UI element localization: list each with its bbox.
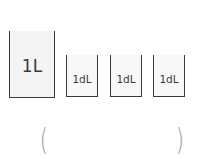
answer-close-paren: )	[176, 125, 184, 155]
one-deciliter-container: 1dL	[66, 55, 98, 97]
one-deciliter-container: 1dL	[110, 55, 142, 97]
container-label: 1dL	[159, 73, 178, 85]
answer-open-paren: (	[40, 125, 48, 155]
one-deciliter-container: 1dL	[153, 55, 185, 97]
container-label: 1dL	[116, 73, 135, 85]
container-label: 1L	[22, 56, 42, 76]
answer-blank[interactable]	[52, 130, 172, 156]
one-liter-container: 1L	[9, 31, 55, 98]
container-label: 1dL	[72, 73, 91, 85]
